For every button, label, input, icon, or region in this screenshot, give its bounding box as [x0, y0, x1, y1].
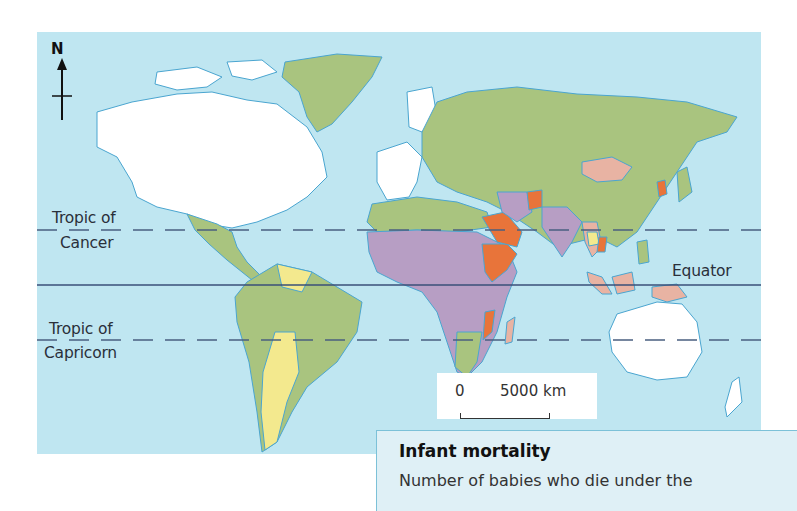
tropic-of-capricorn-label-2: Capricorn: [44, 345, 117, 362]
legend-description: Number of babies who die under the: [399, 471, 693, 490]
north-africa: [367, 197, 492, 232]
north-america: [97, 92, 327, 228]
tropic-of-cancer-label-2: Cancer: [60, 235, 113, 252]
scale-end: 5000 km: [500, 382, 566, 400]
tropic-of-capricorn-label-1: Tropic of: [49, 321, 112, 338]
scale-start: 0: [455, 382, 465, 400]
legend-panel: Infant mortality Number of babies who di…: [376, 430, 797, 511]
world-map-svg: [37, 32, 761, 454]
north-label: N: [51, 40, 64, 58]
scale-bar: 0 5000 km: [437, 373, 597, 419]
south-america: [235, 264, 362, 452]
scale-bar-line: [460, 413, 550, 419]
north-arrow-icon: [52, 58, 72, 122]
legend-title: Infant mortality: [399, 441, 551, 461]
tropic-of-cancer-label-1: Tropic of: [52, 210, 115, 227]
western-europe: [377, 142, 422, 200]
world-map: [37, 32, 761, 454]
equator-label: Equator: [672, 263, 732, 280]
australia: [609, 302, 702, 380]
